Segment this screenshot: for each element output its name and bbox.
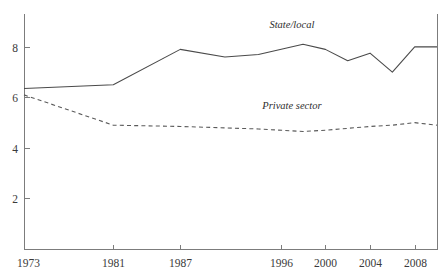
line-chart: 2468 1973198119871996200020042008 State/… [0,0,444,278]
chart-axes [25,14,438,250]
series-label-private-sector: Private sector [261,100,322,111]
y-tick-label: 4 [12,143,18,155]
x-tick-label: 2000 [314,257,337,269]
x-tick-label: 2008 [404,257,427,269]
axis-ticks [25,48,416,250]
y-tick-label: 6 [12,92,18,104]
chart-container: 2468 1973198119871996200020042008 State/… [0,0,444,278]
y-tick-label: 2 [12,193,18,205]
y-tick-label: 8 [12,42,18,54]
series-label-state-local: State/local [269,19,314,30]
series-line-state-local [24,44,437,88]
x-tick-label: 1973 [17,257,40,269]
x-tick-label: 2004 [359,257,382,269]
x-axis-tick-labels: 1973198119871996200020042008 [17,257,427,269]
x-tick-label: 1996 [270,257,293,269]
series-line-private-sector [24,95,437,132]
y-axis-tick-labels: 2468 [12,42,18,205]
series-lines [24,44,437,131]
x-tick-label: 1981 [102,257,125,269]
series-annotations: State/localPrivate sector [261,19,322,111]
x-tick-label: 1987 [169,257,192,269]
